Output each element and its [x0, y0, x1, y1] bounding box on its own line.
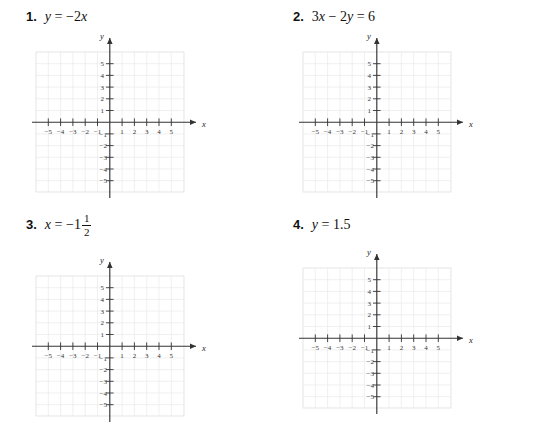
y-tick-label: −2: [367, 142, 375, 150]
x-tick-label: 3: [145, 352, 149, 360]
x-axis-label: x: [468, 335, 473, 345]
fraction: 12: [82, 213, 92, 238]
y-axis-label: y: [99, 31, 104, 41]
equation-term1-coefficient: 3: [312, 9, 319, 24]
x-tick-label: −3: [336, 344, 344, 352]
x-tick-label: −5: [312, 344, 320, 352]
y-tick-label: 5: [368, 60, 372, 68]
y-tick-label: −1: [100, 355, 108, 363]
x-axis-label: x: [201, 119, 206, 129]
problem-4-graph[interactable]: −5 −4 −3 −2 −1 1 2 3 4 5 x: [297, 262, 457, 414]
problem-1-graph[interactable]: −5 −4 −3 −2 −1 1 2 3 4 5 x: [30, 46, 190, 198]
x-axis-label: x: [468, 119, 473, 129]
x-tick-label: −2: [81, 352, 89, 360]
problem-3: 3. x = −112: [0, 208, 267, 421]
problem-2-graph[interactable]: −5 −4 −3 −2 −1 1 2 3 4 5 x: [297, 46, 457, 198]
y-tick-label: −2: [100, 366, 108, 374]
y-tick-label: −1: [367, 347, 375, 355]
x-tick-label: 5: [170, 352, 174, 360]
x-tick-label: −2: [348, 128, 356, 136]
x-axis-label: x: [201, 343, 206, 353]
problem-4-number: 4.: [293, 216, 304, 233]
worksheet-page: 1. y = −2x: [0, 0, 534, 427]
x-tick-label: 4: [157, 128, 161, 136]
problem-2-prompt: 2. 3x − 2y = 6: [293, 8, 375, 34]
equation-rhs: 6: [368, 9, 375, 24]
x-tick-label: −3: [336, 128, 344, 136]
problem-2: 2. 3x − 2y = 6: [267, 0, 534, 213]
y-tick-label: −5: [100, 401, 108, 409]
problem-3-graph[interactable]: −5 −4 −3 −2 −1 1 2 3 4 5 x: [30, 270, 190, 422]
y-tick-label: −1: [367, 131, 375, 139]
x-tick-label: 3: [145, 128, 149, 136]
problem-1: 1. y = −2x: [0, 0, 267, 213]
y-axis-label: y: [366, 31, 371, 41]
y-tick-label: 5: [368, 276, 372, 284]
y-tick-label: 1: [101, 107, 105, 115]
y-tick-label: −5: [367, 177, 375, 185]
x-tick-label: −4: [324, 128, 332, 136]
x-tick-label: 2: [400, 344, 404, 352]
y-tick-label: −4: [100, 166, 108, 174]
equation-variable: x: [81, 9, 87, 24]
coordinate-plane-4[interactable]: −5 −4 −3 −2 −1 1 2 3 4 5 x: [297, 262, 457, 414]
problem-1-number: 1.: [26, 8, 37, 25]
problem-3-equation: x = −112: [45, 216, 92, 241]
coordinate-plane-2[interactable]: −5 −4 −3 −2 −1 1 2 3 4 5 x: [297, 46, 457, 198]
problem-3-prompt: 3. x = −112: [26, 216, 91, 242]
x-tick-label: 4: [157, 352, 161, 360]
y-tick-label: 4: [368, 288, 372, 296]
x-tick-label: −2: [81, 128, 89, 136]
x-tick-label: 5: [437, 344, 441, 352]
x-tick-label: 3: [412, 128, 416, 136]
y-tick-label: −3: [100, 154, 108, 162]
y-axis-label: y: [99, 255, 104, 265]
equation-relation: =: [357, 9, 365, 24]
y-tick-label: 2: [368, 311, 372, 319]
coordinate-plane-3[interactable]: −5 −4 −3 −2 −1 1 2 3 4 5 x: [30, 270, 190, 422]
y-tick-label: 2: [101, 95, 105, 103]
x-tick-label: −4: [57, 128, 65, 136]
x-axis-2: −5 −4 −3 −2 −1 1 2 3 4 5 x: [299, 118, 473, 135]
coordinate-plane-1[interactable]: −5 −4 −3 −2 −1 1 2 3 4 5 x: [30, 46, 190, 198]
y-tick-label: −5: [100, 177, 108, 185]
y-tick-label: 3: [101, 84, 105, 92]
equation-term2-coefficient: 2: [340, 9, 347, 24]
y-tick-label: 1: [101, 331, 105, 339]
x-tick-label: −4: [324, 344, 332, 352]
x-tick-label: 4: [424, 344, 428, 352]
y-tick-label: −4: [367, 166, 375, 174]
problem-1-prompt: 1. y = −2x: [26, 8, 87, 34]
x-tick-label: −5: [312, 128, 320, 136]
y-axis-2: 5 4 3 2 1 −1 −2 −3 −4 −5 y: [366, 31, 381, 198]
y-tick-label: 4: [101, 296, 105, 304]
fraction-numerator: 1: [82, 213, 92, 224]
x-tick-label: 3: [412, 344, 416, 352]
mixed-whole-part: 1: [74, 216, 81, 233]
y-tick-label: −3: [367, 370, 375, 378]
fraction-denominator: 2: [82, 227, 92, 238]
x-tick-label: −3: [69, 128, 77, 136]
y-tick-label: −3: [100, 378, 108, 386]
x-tick-label: −5: [45, 128, 53, 136]
x-tick-label: 1: [120, 352, 124, 360]
x-tick-label: 2: [133, 128, 137, 136]
x-tick-label: −4: [57, 352, 65, 360]
equation-sign: −: [66, 216, 74, 233]
y-tick-label: 2: [368, 95, 372, 103]
y-tick-label: 2: [101, 319, 105, 327]
x-tick-label: −2: [348, 344, 356, 352]
x-tick-label: 2: [133, 352, 137, 360]
x-tick-label: 5: [437, 128, 441, 136]
x-tick-label: 4: [424, 128, 428, 136]
mixed-number: −112: [66, 216, 91, 241]
y-tick-label: −2: [367, 358, 375, 366]
y-axis-1: 5 4 3 2 1 −1 −2 −3 −4 −5 y: [99, 31, 114, 198]
problem-3-number: 3.: [26, 216, 37, 233]
y-tick-label: 1: [368, 323, 372, 331]
y-tick-label: −2: [100, 142, 108, 150]
y-tick-label: 1: [368, 107, 372, 115]
y-tick-label: 3: [368, 300, 372, 308]
y-tick-label: 4: [368, 72, 372, 80]
problem-2-number: 2.: [293, 8, 304, 25]
